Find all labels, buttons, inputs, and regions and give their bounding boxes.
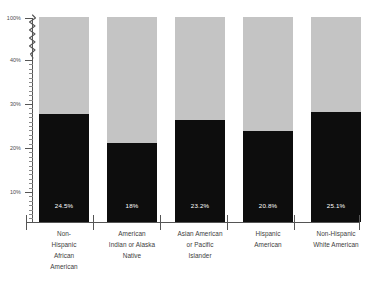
y-axis: 100% 40% 30% 20% 10% <box>0 0 34 230</box>
category-label-line: American <box>101 228 163 239</box>
y-tick-label-30: 30% <box>10 101 21 107</box>
category-label-asian-american-pacific-islander: Asian American or Pacific Islander <box>169 228 231 272</box>
bars-row: 24.5% 18% 23.2% 20.8% <box>33 0 365 222</box>
category-label-non-hispanic-white-american: Non-Hispanic White American <box>305 228 365 272</box>
y-tick-major-10 <box>25 192 33 193</box>
bar-group-non-hispanic-african-american[interactable]: 24.5% <box>39 17 89 222</box>
category-label-line: African <box>33 250 95 261</box>
bar-value-label: 23.2% <box>175 202 225 209</box>
category-label-line: Hispanic <box>33 239 95 250</box>
plot-area: 24.5% 18% 23.2% 20.8% <box>33 0 365 222</box>
bar-dark-segment: 25.1% <box>311 112 361 222</box>
bar-group-american-indian-alaska-native[interactable]: 18% <box>107 17 157 222</box>
category-label-line: or Pacific <box>169 239 231 250</box>
category-label-line: American <box>33 261 95 272</box>
category-label-line: Hispanic <box>237 228 299 239</box>
bar-light-segment <box>107 17 157 143</box>
category-label-line: American <box>237 239 299 250</box>
bar-group-asian-american-pacific-islander[interactable]: 23.2% <box>175 17 225 222</box>
bar-dark-segment: 23.2% <box>175 120 225 222</box>
x-axis-line <box>26 222 360 223</box>
y-tick-major-20 <box>25 148 33 149</box>
category-label-line: White American <box>305 239 365 250</box>
category-label-hispanic-american: Hispanic American <box>237 228 299 272</box>
y-tick-major-100 <box>25 18 33 19</box>
bar-dark-segment: 18% <box>107 143 157 222</box>
category-label-line: Non- <box>33 228 95 239</box>
bar-light-segment <box>175 17 225 120</box>
bar-value-label: 25.1% <box>311 202 361 209</box>
y-tick-major-40 <box>25 60 33 61</box>
bar-group-hispanic-american[interactable]: 20.8% <box>243 17 293 222</box>
x-tick <box>26 215 27 230</box>
bar-value-label: 18% <box>107 202 157 209</box>
bar-value-label: 24.5% <box>39 202 89 209</box>
y-tick-label-20: 20% <box>10 145 21 151</box>
category-label-american-indian-alaska-native: American Indian or Alaska Native <box>101 228 163 272</box>
y-tick-label-100: 100% <box>7 15 21 21</box>
y-tick-label-40: 40% <box>10 57 21 63</box>
category-label-line: Native <box>101 250 163 261</box>
bar-group-non-hispanic-white-american[interactable]: 25.1% <box>311 17 361 222</box>
category-label-line: Islander <box>169 250 231 261</box>
stacked-bar-chart: 100% 40% 30% 20% 10% <box>0 0 365 289</box>
category-label-line: Asian American <box>169 228 231 239</box>
bar-light-segment <box>243 17 293 131</box>
y-tick-label-10: 10% <box>10 189 21 195</box>
category-label-non-hispanic-african-american: Non- Hispanic African American <box>33 228 95 272</box>
y-tick-major-30 <box>25 104 33 105</box>
bar-light-segment <box>39 17 89 114</box>
bar-value-label: 20.8% <box>243 202 293 209</box>
category-label-line: Indian or Alaska <box>101 239 163 250</box>
category-label-line: Non-Hispanic <box>305 228 365 239</box>
bar-dark-segment: 24.5% <box>39 114 89 222</box>
bar-light-segment <box>311 17 361 112</box>
category-labels: Non- Hispanic African American American … <box>33 228 365 272</box>
bar-dark-segment: 20.8% <box>243 131 293 222</box>
